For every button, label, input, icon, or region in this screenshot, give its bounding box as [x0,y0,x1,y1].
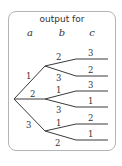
b-label: 3 [56,105,61,115]
header-title: output for [40,14,85,24]
b-label: 2 [56,52,61,62]
column-a-label: a [27,27,33,38]
b-label: 2 [55,138,60,148]
column-b-label: b [59,27,65,38]
tree-diagram: output for a b c 1 2 3 3 2 2 1 3 3 1 3 1… [0,0,122,166]
c-label: 1 [88,129,93,139]
b-label: 1 [56,118,61,128]
branch-label-1: 1 [26,71,31,81]
branch-label-2: 2 [30,89,35,99]
b-label: 1 [56,85,61,95]
column-c-label: c [89,27,95,38]
c-label: 2 [88,113,93,123]
c-label: 3 [88,48,93,58]
branch-label-3: 3 [26,120,31,130]
b-label: 3 [56,73,61,83]
c-label: 3 [88,80,93,90]
edge-3-2 [45,131,76,140]
c-label: 1 [88,96,93,106]
c-label: 2 [88,65,93,75]
